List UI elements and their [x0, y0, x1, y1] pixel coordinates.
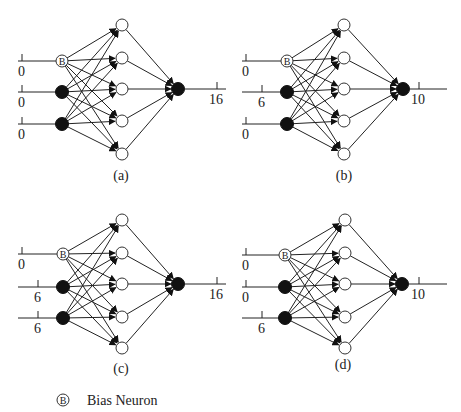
hidden-neuron — [116, 247, 128, 259]
hidden-neuron — [339, 278, 351, 290]
input-value-label: 0 — [242, 64, 249, 79]
input-hidden-connection — [285, 284, 338, 287]
input-value-label: 0 — [18, 95, 25, 110]
legend: B Bias Neuron — [57, 393, 157, 408]
input-hidden-connection — [63, 254, 117, 312]
input-hidden-connection — [62, 124, 116, 151]
hidden-neuron — [116, 52, 128, 64]
hidden-neuron — [116, 83, 128, 95]
hidden-neuron — [338, 115, 350, 127]
panel-caption: (d) — [335, 357, 352, 373]
hidden-output-connection — [127, 61, 172, 86]
output-neuron — [172, 83, 185, 96]
hidden-neuron — [116, 214, 128, 226]
bias-neuron-symbol: B — [282, 250, 289, 261]
input-neuron — [57, 281, 70, 294]
hidden-neuron — [116, 148, 128, 160]
hidden-output-connection — [349, 224, 397, 278]
input-hidden-connection — [62, 92, 116, 118]
input-hidden-connection — [63, 317, 115, 318]
hidden-output-connection — [126, 289, 173, 343]
hidden-output-connection — [348, 29, 398, 83]
input-hidden-connection — [62, 121, 115, 124]
input-hidden-connection — [62, 92, 117, 149]
hidden-neuron — [116, 19, 128, 31]
hidden-neuron — [338, 148, 350, 160]
output-value-label: 10 — [411, 92, 425, 107]
input-hidden-connection — [287, 58, 337, 61]
hidden-neuron — [338, 52, 350, 64]
hidden-output-connection — [348, 94, 398, 149]
input-neuron — [279, 312, 292, 325]
legend-label: Bias Neuron — [87, 393, 157, 408]
input-hidden-connection — [63, 254, 118, 342]
input-hidden-connection — [62, 31, 118, 124]
panel-b: 060B10(b) — [242, 19, 447, 184]
hidden-output-connection — [127, 256, 172, 281]
input-value-label: 0 — [242, 258, 249, 273]
output-value-label: 16 — [209, 287, 223, 302]
input-hidden-connection — [285, 287, 340, 343]
hidden-neuron — [116, 342, 128, 354]
input-hidden-connection — [63, 223, 116, 254]
input-neuron — [56, 118, 69, 131]
input-hidden-connection — [285, 224, 339, 255]
figure-canvas: 000B16(a)060B10(b)066B16(c)006B10(d) B B… — [0, 0, 461, 412]
input-value-label: 6 — [34, 321, 41, 336]
input-hidden-connection — [62, 89, 115, 92]
output-neuron — [397, 83, 410, 96]
output-neuron — [172, 278, 185, 291]
input-value-label: 6 — [34, 290, 41, 305]
panel-caption: (a) — [113, 168, 129, 184]
input-hidden-connection — [287, 29, 338, 61]
input-hidden-connection — [63, 287, 117, 343]
input-hidden-connection — [287, 121, 337, 124]
hidden-output-connection — [350, 256, 396, 281]
bias-legend-symbol: B — [60, 395, 67, 406]
input-hidden-connection — [287, 124, 338, 151]
hidden-output-connection — [349, 289, 397, 343]
input-value-label: 6 — [258, 321, 265, 336]
panel-d: 006B10(d) — [242, 214, 447, 373]
input-hidden-connection — [287, 92, 339, 149]
output-value-label: 10 — [411, 287, 425, 302]
bias-neuron-symbol: B — [284, 56, 291, 67]
input-hidden-connection — [63, 284, 115, 287]
input-hidden-connection — [287, 92, 338, 118]
input-hidden-connection — [287, 31, 341, 124]
input-hidden-connection — [285, 253, 338, 255]
bias-neuron-symbol: B — [59, 56, 66, 67]
input-value-label: 6 — [258, 95, 265, 110]
input-value-label: 0 — [242, 127, 249, 142]
input-hidden-connection — [62, 58, 115, 61]
neural-network-figure: 000B16(a)060B10(b)066B16(c)006B10(d) B B… — [0, 0, 461, 412]
hidden-output-connection — [127, 92, 172, 118]
input-neuron — [279, 281, 292, 294]
hidden-neuron — [338, 19, 350, 31]
hidden-output-connection — [349, 61, 396, 86]
output-neuron — [396, 278, 409, 291]
input-neuron — [57, 312, 70, 325]
input-hidden-connection — [285, 318, 339, 345]
hidden-output-connection — [126, 225, 173, 279]
hidden-neuron — [116, 278, 128, 290]
input-neuron — [281, 86, 294, 99]
hidden-output-connection — [126, 30, 173, 84]
input-hidden-connection — [63, 318, 116, 345]
input-neuron — [56, 86, 69, 99]
input-hidden-connection — [285, 255, 340, 312]
input-hidden-connection — [63, 253, 115, 254]
hidden-output-connection — [126, 94, 174, 149]
bias-neuron-symbol: B — [60, 249, 67, 260]
panel-a: 000B16(a) — [18, 19, 226, 184]
hidden-neuron — [116, 115, 128, 127]
panel-caption: (b) — [336, 168, 353, 184]
hidden-neuron — [338, 83, 350, 95]
input-hidden-connection — [62, 29, 116, 61]
input-value-label: 0 — [18, 257, 25, 272]
output-value-label: 16 — [209, 92, 223, 107]
hidden-output-connection — [349, 92, 397, 118]
hidden-neuron — [116, 311, 128, 323]
hidden-neuron — [339, 342, 351, 354]
input-value-label: 0 — [242, 290, 249, 305]
